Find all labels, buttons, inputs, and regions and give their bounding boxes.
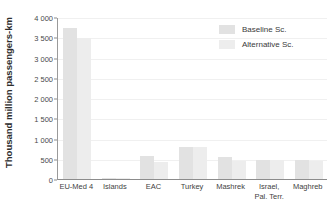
- y-tick-label: 1 000: [7, 135, 53, 144]
- x-tick-label-line: Islands: [103, 182, 127, 191]
- bar[interactable]: [232, 161, 246, 179]
- legend-label-alternative: Alternative Sc.: [242, 40, 294, 49]
- legend-item-alternative[interactable]: Alternative Sc.: [219, 40, 294, 49]
- bar[interactable]: [179, 147, 193, 179]
- bar[interactable]: [102, 178, 116, 179]
- bar-group: [135, 18, 174, 179]
- bar[interactable]: [77, 38, 91, 179]
- y-tick-label: 1 500: [7, 115, 53, 124]
- x-tick-label-line: Pal. Terr.: [250, 192, 289, 202]
- bar[interactable]: [256, 160, 270, 179]
- y-tick-label: 500: [7, 155, 53, 164]
- bar[interactable]: [154, 162, 168, 179]
- bar[interactable]: [116, 178, 130, 179]
- legend-swatch-baseline-icon: [219, 25, 235, 34]
- x-tick-label: EU-Med 4: [57, 182, 96, 192]
- bar-chart: Thousand million passengers-km 05001 000…: [0, 0, 331, 213]
- bar[interactable]: [193, 147, 207, 179]
- x-tick-label-line: Turkey: [181, 182, 204, 191]
- bar[interactable]: [140, 156, 154, 179]
- x-tick-label-line: EAC: [146, 182, 161, 191]
- x-tick-label-line: Maghreb: [293, 182, 323, 191]
- x-tick-label: Israel,Pal. Terr.: [250, 182, 289, 201]
- bar-group: [58, 18, 97, 179]
- x-tick-label: Islands: [96, 182, 135, 192]
- x-tick-label: Mashrek: [211, 182, 250, 192]
- y-tick-label: 4 000: [7, 14, 53, 23]
- legend-item-baseline[interactable]: Baseline Sc.: [219, 25, 294, 34]
- y-tick-label: 3 000: [7, 54, 53, 63]
- y-tick-label: 2 500: [7, 74, 53, 83]
- x-axis-labels: EU-Med 4IslandsEACTurkeyMashrekIsrael,Pa…: [57, 182, 327, 213]
- x-tick-label-line: Mashrek: [216, 182, 245, 191]
- legend: Baseline Sc. Alternative Sc.: [219, 25, 294, 49]
- bar-group: [289, 18, 328, 179]
- x-tick-label-line: Israel,: [259, 182, 279, 191]
- bar[interactable]: [63, 28, 77, 179]
- x-tick-label: EAC: [134, 182, 173, 192]
- legend-swatch-alternative-icon: [219, 40, 235, 49]
- y-tick-label: 3 500: [7, 34, 53, 43]
- y-tick-label: 0: [7, 176, 53, 185]
- bar[interactable]: [295, 160, 309, 179]
- bar[interactable]: [309, 161, 323, 179]
- bar[interactable]: [218, 157, 232, 179]
- x-tick-label: Maghreb: [288, 182, 327, 192]
- bar[interactable]: [270, 160, 284, 179]
- bar-group: [97, 18, 136, 179]
- x-tick-label-line: EU-Med 4: [59, 182, 93, 191]
- y-tick-label: 2 000: [7, 95, 53, 104]
- legend-label-baseline: Baseline Sc.: [242, 25, 286, 34]
- x-tick-label: Turkey: [173, 182, 212, 192]
- bar-group: [174, 18, 213, 179]
